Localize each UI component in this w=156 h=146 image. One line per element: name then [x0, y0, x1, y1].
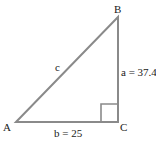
vertex-label-b: B — [114, 3, 121, 15]
vertex-label-c: C — [120, 121, 127, 133]
vertex-label-a: A — [3, 121, 11, 133]
side-label-a: a = 37.4 — [121, 66, 156, 78]
side-label-c: c — [55, 61, 60, 73]
triangle-outline — [16, 17, 118, 122]
side-label-b: b = 25 — [54, 127, 83, 139]
triangle-diagram: B C A c a = 37.4 b = 25 — [0, 0, 156, 146]
right-angle-marker — [101, 104, 118, 122]
